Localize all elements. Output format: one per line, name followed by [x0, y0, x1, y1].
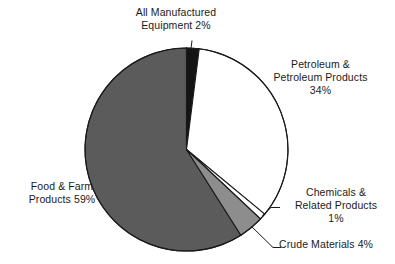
pie-label-food-farm: Food & Farm Products 59%: [4, 180, 120, 206]
pie-label-petroleum: Petroleum & Petroleum Products 34%: [248, 58, 393, 97]
pie-label-manufactured-equipment: All Manufactured Equipment 2%: [106, 6, 246, 32]
leader-line-crude-materials: [252, 227, 282, 248]
pie-chart-figure: All Manufactured Equipment 2% Petroleum …: [0, 0, 395, 264]
leader-line-manufactured-equipment: [191, 41, 192, 49]
pie-label-chemicals: Chemicals & Related Products 1%: [280, 186, 392, 225]
pie-label-crude-materials: Crude Materials 4%: [279, 238, 395, 251]
